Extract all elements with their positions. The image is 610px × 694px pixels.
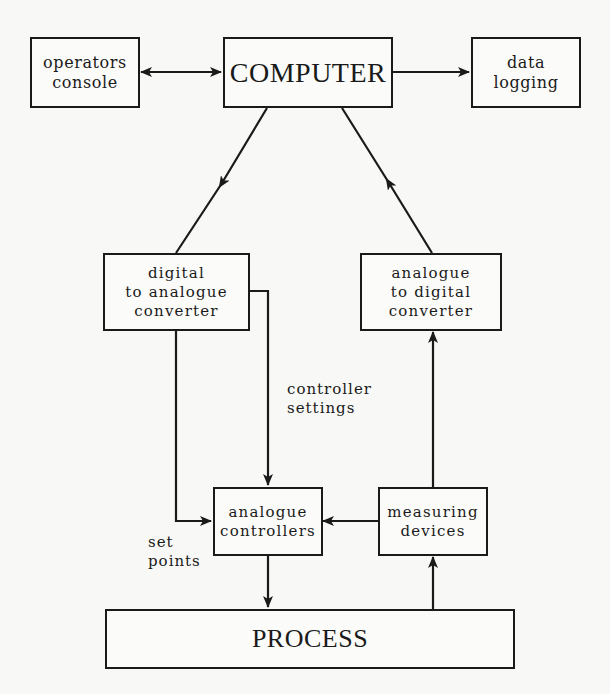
- data-logging-label: data logging: [493, 53, 558, 93]
- dac-box: digital to analogue converter: [103, 253, 250, 331]
- edge-dac-controllers-setpoints: [176, 331, 211, 521]
- analogue-controllers-label: analogue controllers: [220, 503, 316, 541]
- data-logging-box: data logging: [471, 37, 581, 108]
- computer-box: COMPUTER: [223, 37, 393, 108]
- set-points-label: set points: [148, 533, 201, 571]
- controller-settings-label: controller settings: [287, 380, 372, 418]
- operators-console-box: operators console: [30, 37, 140, 108]
- dac-label: digital to analogue converter: [125, 264, 228, 321]
- process-label: PROCESS: [252, 624, 368, 654]
- measuring-devices-label: measuring devices: [387, 503, 478, 541]
- process-box: PROCESS: [105, 609, 515, 669]
- computer-label: COMPUTER: [230, 58, 386, 88]
- edge-computer-dac: [176, 108, 267, 253]
- adc-box: analogue to digital converter: [360, 253, 502, 331]
- analogue-controllers-box: analogue controllers: [213, 487, 323, 556]
- adc-label: analogue to digital converter: [389, 264, 474, 321]
- edge-adc-computer: [342, 108, 432, 253]
- measuring-devices-box: measuring devices: [378, 487, 488, 556]
- operators-console-label: operators console: [43, 53, 127, 93]
- edge-dac-controllers-settings: [249, 291, 268, 485]
